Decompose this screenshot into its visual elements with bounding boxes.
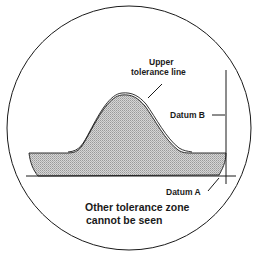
- datum-a-leader: [208, 178, 219, 191]
- datum-b-label: Datum B: [170, 111, 205, 120]
- upper-tolerance-label-line2: tolerance line: [131, 68, 186, 77]
- datum-a-label: Datum A: [166, 188, 201, 197]
- upper-tolerance-leader: [148, 84, 162, 98]
- caption-line1: Other tolerance zone: [85, 202, 189, 213]
- upper-tolerance-label-line1: Upper: [149, 58, 174, 67]
- caption-line2: cannot be seen: [86, 215, 162, 226]
- part-profile-shape: [29, 95, 226, 176]
